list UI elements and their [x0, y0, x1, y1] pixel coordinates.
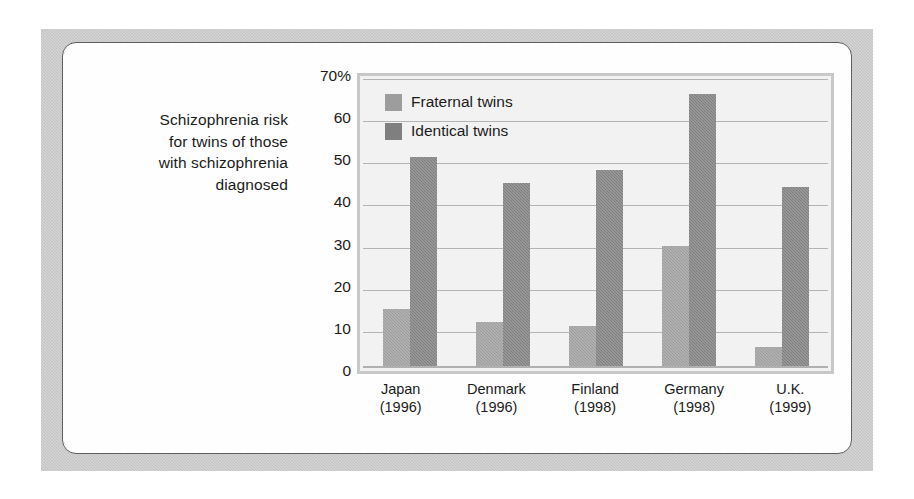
- y-tick-label: 50: [299, 151, 351, 169]
- bar-fraternal: [383, 309, 410, 368]
- bar-fraternal: [569, 326, 596, 368]
- x-tick-label: Finland(1998): [571, 380, 619, 416]
- x-axis-baseline: [363, 366, 828, 368]
- bar-identical: [410, 157, 437, 368]
- bar-group: [755, 79, 809, 368]
- x-tick-year: (1998): [571, 398, 619, 416]
- x-tick-year: (1996): [467, 398, 526, 416]
- legend-swatch-fraternal: [385, 94, 402, 111]
- bar-fraternal: [755, 347, 782, 368]
- legend-swatch-identical: [385, 123, 402, 140]
- x-tick-country: Finland: [571, 380, 619, 398]
- x-tick-label: Japan(1996): [380, 380, 422, 416]
- y-tick-label: 20: [299, 278, 351, 296]
- x-tick-label: Denmark(1996): [467, 380, 526, 416]
- bar-identical: [689, 94, 716, 368]
- y-axis: 010203040506070%: [299, 73, 351, 374]
- caption-line-3: with schizophrenia: [73, 152, 288, 174]
- x-tick-country: Denmark: [467, 380, 526, 398]
- x-tick-country: Germany: [664, 380, 724, 398]
- x-tick-country: Japan: [380, 380, 422, 398]
- caption-line-1: Schizophrenia risk: [73, 109, 288, 131]
- legend-label-identical: Identical twins: [411, 122, 508, 140]
- y-tick-label: 40: [299, 193, 351, 211]
- bar-group: [662, 79, 716, 368]
- x-tick-country: U.K.: [769, 380, 811, 398]
- x-tick-year: (1998): [664, 398, 724, 416]
- figure-frame: Schizophrenia risk for twins of those wi…: [41, 29, 873, 471]
- legend-item-fraternal: Fraternal twins: [385, 91, 513, 113]
- legend-label-fraternal: Fraternal twins: [411, 93, 513, 111]
- x-tick-label: Germany(1998): [664, 380, 724, 416]
- plot-area-wrapper: Fraternal twins Identical twins: [357, 73, 834, 374]
- y-tick-label: 10: [299, 320, 351, 338]
- bar-identical: [596, 170, 623, 368]
- caption-line-4: diagnosed: [73, 174, 288, 196]
- y-tick-label: 60: [299, 109, 351, 127]
- legend-item-identical: Identical twins: [385, 120, 513, 142]
- bar-chart: 010203040506070% Fraternal twins: [299, 73, 834, 433]
- bar-group: [569, 79, 623, 368]
- chart-panel: Schizophrenia risk for twins of those wi…: [62, 42, 852, 454]
- bar-fraternal: [662, 246, 689, 368]
- chart-caption: Schizophrenia risk for twins of those wi…: [73, 109, 288, 195]
- bar-identical: [503, 183, 530, 368]
- bar-fraternal: [476, 322, 503, 368]
- chart-legend: Fraternal twins Identical twins: [385, 91, 513, 149]
- bar-identical: [782, 187, 809, 368]
- x-tick-year: (1996): [380, 398, 422, 416]
- caption-line-2: for twins of those: [73, 131, 288, 153]
- x-tick-label: U.K.(1999): [769, 380, 811, 416]
- y-tick-label: 30: [299, 236, 351, 254]
- x-tick-year: (1999): [769, 398, 811, 416]
- x-axis-labels: Japan(1996)Denmark(1996)Finland(1998)Ger…: [357, 380, 834, 416]
- y-tick-label: 0: [299, 362, 351, 380]
- y-tick-label: 70%: [299, 67, 351, 85]
